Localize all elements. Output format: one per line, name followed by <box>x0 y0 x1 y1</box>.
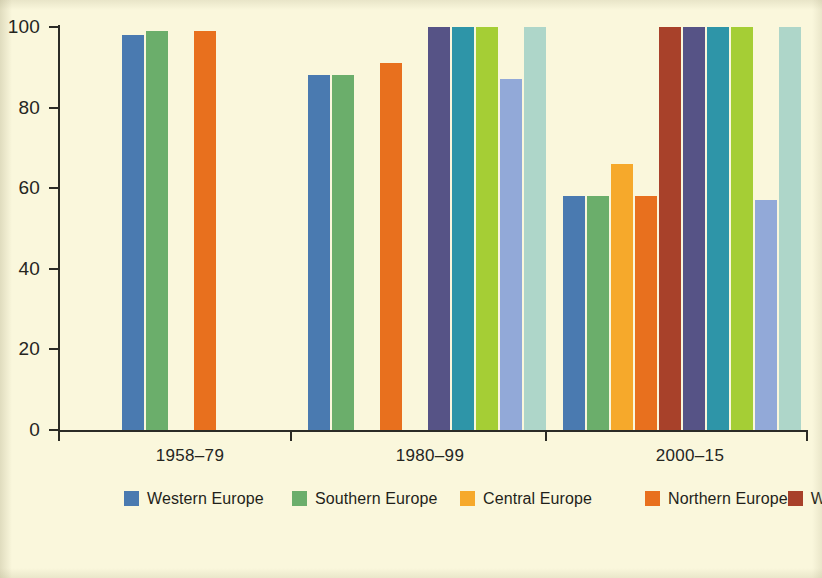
bar <box>476 27 498 430</box>
legend-item: Central Europe <box>460 486 645 511</box>
bar <box>707 27 729 430</box>
x-axis-tick <box>290 430 292 441</box>
legend-item: Western Balkans <box>788 486 822 511</box>
x-axis-group-label: 1980–99 <box>396 446 464 466</box>
bar <box>380 63 402 430</box>
legend-color-swatch <box>292 491 307 506</box>
legend-item: Northern Europe <box>645 486 788 511</box>
y-axis-tick-label: 40 <box>0 258 40 280</box>
x-axis-line <box>58 430 808 432</box>
y-axis-tick <box>49 429 58 431</box>
bar <box>587 196 609 430</box>
y-axis-tick <box>49 26 58 28</box>
x-axis-tick <box>806 430 808 441</box>
legend-color-swatch <box>788 491 803 506</box>
bar <box>563 196 585 430</box>
bar <box>683 27 705 430</box>
legend-label: Western Balkans <box>811 490 822 508</box>
legend-label: Central Europe <box>483 490 592 508</box>
y-axis-tick <box>49 348 58 350</box>
y-axis-tick <box>49 107 58 109</box>
bar <box>731 27 753 430</box>
bar <box>500 79 522 430</box>
bar <box>779 27 801 430</box>
bar <box>659 27 681 430</box>
bar <box>146 31 168 430</box>
legend-color-swatch <box>460 491 475 506</box>
y-axis-tick-label: 0 <box>0 419 40 441</box>
y-axis-tick-label: 80 <box>0 97 40 119</box>
legend-color-swatch <box>645 491 660 506</box>
bar <box>611 164 633 430</box>
y-axis-tick-label: 100 <box>0 16 40 38</box>
legend-item: Western Europe <box>124 486 292 511</box>
x-axis-group-label: 1958–79 <box>156 446 224 466</box>
y-axis-tick-label: 20 <box>0 338 40 360</box>
x-axis-group-label: 2000–15 <box>656 446 724 466</box>
bar <box>428 27 450 430</box>
bar <box>332 75 354 430</box>
bar <box>122 35 144 430</box>
y-axis-tick <box>49 268 58 270</box>
legend-label: Southern Europe <box>315 490 437 508</box>
y-axis-tick-label: 60 <box>0 177 40 199</box>
bar <box>194 31 216 430</box>
x-axis-tick <box>58 430 60 441</box>
plot-area <box>58 27 806 430</box>
legend-label: Northern Europe <box>668 490 788 508</box>
bar <box>308 75 330 430</box>
bar <box>452 27 474 430</box>
bar <box>755 200 777 430</box>
bar <box>524 27 546 430</box>
chart-legend: Western EuropeSouthern EuropeCentral Eur… <box>124 486 822 511</box>
y-axis-tick <box>49 187 58 189</box>
bar <box>635 196 657 430</box>
grouped-bar-chart: 020406080100 1958–791980–992000–15 Weste… <box>0 0 822 578</box>
legend-color-swatch <box>124 491 139 506</box>
legend-label: Western Europe <box>147 490 264 508</box>
x-axis-tick <box>545 430 547 441</box>
legend-item: Southern Europe <box>292 486 460 511</box>
